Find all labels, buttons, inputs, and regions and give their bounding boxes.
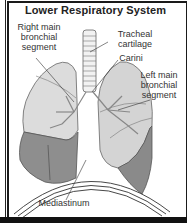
label-right-main-bronchial-segment: Right main bronchial segment [12, 22, 66, 52]
diagram-title: Lower Respiratory System [7, 4, 184, 16]
label-carini: Carini [114, 53, 148, 63]
label-mediastinum: Mediastinum [38, 198, 90, 208]
label-left-main-bronchial-segment: Left main bronchial segment [134, 70, 184, 100]
trachea [83, 30, 96, 92]
bottom-border [0, 217, 187, 223]
label-tracheal-cartilage: Tracheal cartilage [110, 29, 160, 49]
label-line: Left main [134, 70, 184, 80]
label-line: segment [12, 42, 66, 52]
label-line: cartilage [110, 39, 160, 49]
label-line: Tracheal [110, 29, 160, 39]
label-line: segment [134, 90, 184, 100]
label-line: Right main [12, 22, 66, 32]
label-line: bronchial [134, 80, 184, 90]
right-lung [20, 62, 79, 183]
label-line: bronchial [12, 32, 66, 42]
